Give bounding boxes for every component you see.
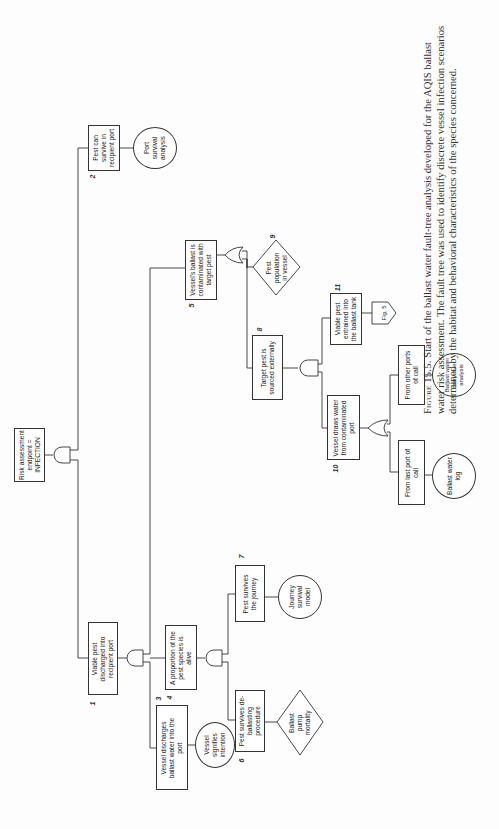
node-11-label: Viable pest entrained into the ballast t…	[334, 295, 358, 343]
leaf-ballast-pump: Ballast pump mortality	[277, 690, 323, 755]
leaf-fig5-label: Fig. 5	[380, 303, 388, 323]
node-3: Vessel discharges ballast water into the…	[156, 705, 188, 790]
node-11: Viable pest entrained into the ballast t…	[330, 293, 362, 345]
node-8: Target pest is sourced externally	[252, 335, 283, 400]
node-number-7: 7	[238, 555, 245, 559]
node-number-4: 4	[166, 696, 173, 700]
leaf-vessel-signifies: Vessel signifies intention	[195, 722, 235, 768]
node-3-label: Vessel discharges ballast water into the…	[160, 712, 184, 784]
node-7-label: Pest survives the journey	[242, 569, 258, 619]
node-1: Viable pest discharged into recipient po…	[88, 622, 118, 695]
leaf-fig5: Fig. 5	[372, 302, 396, 324]
leaf-journey-survival-label: Journey survival model	[288, 578, 312, 616]
node-number-6: 6	[238, 759, 245, 763]
node-last-port-label: From last port of call	[404, 447, 420, 499]
and-gate-n1	[127, 650, 143, 666]
caption-label: Figure 15.5.	[422, 357, 433, 413]
or-gate-n5	[225, 247, 243, 263]
node-10-label: Vessel draws water from contaminated por…	[332, 399, 356, 457]
node-2: Pest can survive in recipient port	[88, 125, 120, 171]
and-gate-n8	[300, 360, 318, 376]
node-4-label: A proportion of the pest species is aliv…	[169, 629, 193, 687]
node-9: Pest population in vessel	[253, 240, 300, 295]
leaf-ballast-log-label: Ballast water log	[446, 457, 462, 495]
figure-page: Risk assessment endpoint = INFECTION Pes…	[0, 0, 499, 829]
node-4: A proportion of the pest species is aliv…	[165, 625, 197, 690]
caption-text: Start of the ballast water fault-tree an…	[422, 25, 458, 413]
leaf-ballast-log: Ballast water log	[432, 453, 476, 499]
leaf-port-survival-label: Port survival analysis	[143, 130, 167, 166]
node-1-label: Viable pest discharged into recipient po…	[91, 629, 115, 689]
node-5: Vessel's ballast is contaminated with ta…	[185, 240, 217, 300]
node-number-9: 9	[269, 235, 276, 239]
node-6: Pest survives de-ballasting procedure	[235, 690, 265, 752]
node-10: Vessel draws water from contaminated por…	[327, 395, 360, 460]
and-gate-n4	[206, 650, 222, 666]
node-root-label: Risk assessment endpoint = INFECTION	[18, 430, 42, 480]
leaf-journey-survival: Journey survival model	[278, 575, 322, 619]
node-2-label: Pest can survive in recipient port	[92, 126, 116, 170]
node-number-8: 8	[256, 328, 263, 332]
node-root: Risk assessment endpoint = INFECTION	[14, 428, 45, 482]
node-number-1: 1	[89, 702, 96, 706]
node-6-label: Pest survives de-ballasting procedure	[238, 694, 262, 748]
leaf-vessel-signifies-label: Vessel signifies intention	[203, 725, 227, 765]
node-number-2: 2	[89, 175, 96, 179]
figure-caption: Figure 15.5. Start of the ballast water …	[410, 20, 472, 415]
node-5-label: Vessel's ballast is contaminated with ta…	[189, 242, 213, 298]
node-number-3: 3	[155, 697, 162, 701]
leaf-port-survival: Port survival analysis	[133, 127, 177, 169]
and-gate-root	[54, 447, 70, 463]
node-last-port: From last port of call	[398, 440, 425, 505]
leaf-ballast-pump-label: Ballast pump mortality	[288, 706, 312, 740]
node-number-10: 10	[332, 465, 339, 473]
node-8-label: Target pest is sourced externally	[260, 339, 276, 397]
node-9-label: Pest population in vessel	[265, 251, 289, 285]
node-7: Pest survives the journey	[235, 565, 265, 622]
or-gate-n10	[368, 420, 388, 436]
node-number-5: 5	[188, 304, 195, 308]
node-number-11: 11	[334, 284, 341, 291]
